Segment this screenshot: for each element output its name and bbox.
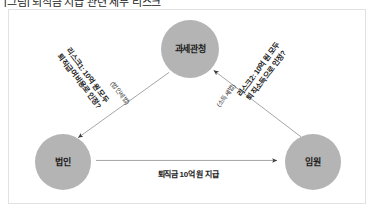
node-corporation-label: 법인 — [55, 158, 70, 167]
figure-caption-strip: [그림] 퇴직금 지급 관련 세무 리스크 — [0, 0, 378, 7]
node-tax-authority-label: 과세관청 — [175, 45, 206, 54]
node-tax-authority: 과세관청 — [161, 20, 219, 78]
node-executive-label: 임원 — [305, 158, 320, 167]
edge-label-payment: 퇴직금 10억 원 지급 — [128, 170, 248, 181]
figure-frame: 과세관청 법인 임원 리스크1: 10억 원 모두 퇴직급여비용로 인정? (법… — [8, 9, 366, 204]
node-corporation: 법인 — [35, 134, 91, 190]
figure-caption: [그림] 퇴직금 지급 관련 세무 리스크 — [4, 0, 161, 7]
node-executive: 임원 — [285, 134, 341, 190]
